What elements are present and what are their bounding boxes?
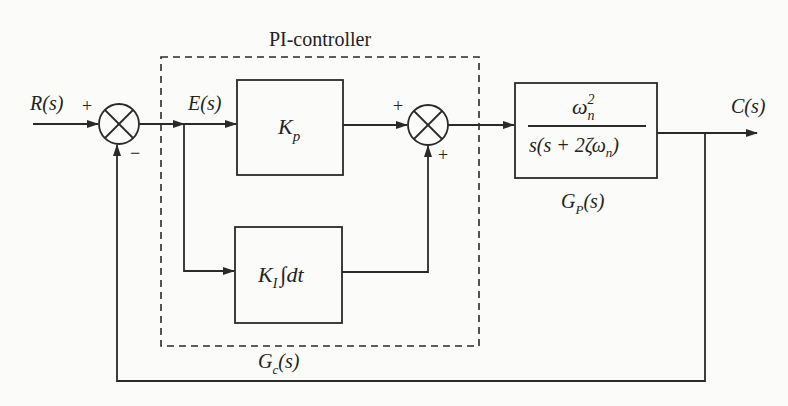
- pi-controller-label: PI-controller: [269, 28, 372, 50]
- summing-junction-1: [99, 104, 139, 144]
- plant-tf-caption: GP(s): [561, 190, 605, 217]
- summing-junction-2: [408, 105, 448, 145]
- ki-input-arrow: [184, 124, 234, 271]
- feedback-path: [117, 133, 705, 381]
- junction1-minus-sign: −: [130, 143, 140, 163]
- plant-numerator: ω2n: [572, 92, 595, 123]
- ki-output-arrow: [342, 146, 428, 272]
- input-signal-label: R(s): [29, 92, 64, 115]
- ki-label: KI∫dt: [257, 262, 304, 291]
- junction2-plus-top: +: [393, 96, 403, 116]
- junction2-plus-bottom: +: [438, 145, 448, 165]
- error-signal-label: E(s): [187, 92, 222, 115]
- output-signal-label: C(s): [731, 95, 766, 118]
- block-diagram: PI-controller R(s) + − E(s) Kp KI∫dt + +…: [0, 0, 788, 406]
- controller-tf-caption: Gc(s): [258, 350, 300, 377]
- junction1-plus-sign: +: [82, 96, 92, 116]
- plant-denominator: s(s + 2ζωn): [529, 134, 619, 160]
- kp-label: Kp: [277, 114, 301, 144]
